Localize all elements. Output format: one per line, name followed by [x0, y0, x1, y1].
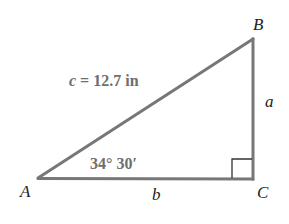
- right-angle-marker: [232, 159, 252, 178]
- hypotenuse-measure: c = 12.7 in: [69, 72, 139, 89]
- angle-a-measure: 34° 30′: [90, 155, 137, 172]
- side-label-b: b: [152, 185, 161, 204]
- triangle-diagram: B A C a b c = 12.7 in 34° 30′: [0, 0, 289, 224]
- vertex-label-b: B: [253, 15, 264, 34]
- equals-sign: =: [80, 72, 89, 89]
- hypotenuse-var: c: [69, 72, 76, 89]
- side-b: [38, 179, 253, 180]
- vertex-label-a: A: [19, 182, 31, 201]
- hypotenuse-value: 12.7 in: [93, 72, 138, 89]
- side-label-a: a: [265, 92, 274, 111]
- side-c-hypotenuse: [38, 39, 253, 178]
- vertex-label-c: C: [257, 183, 269, 202]
